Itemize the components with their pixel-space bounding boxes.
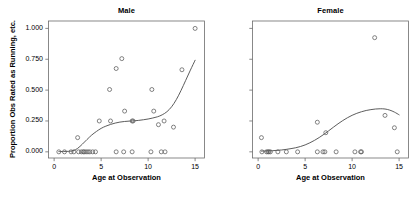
data-point (109, 119, 113, 123)
data-point (259, 136, 263, 140)
data-point (108, 88, 112, 92)
data-point (150, 88, 154, 92)
plot-canvas (0, 0, 420, 198)
data-point (395, 150, 399, 154)
data-point (284, 150, 288, 154)
data-point (171, 125, 175, 129)
data-point (353, 150, 357, 154)
data-point (180, 68, 184, 72)
figure-container: Male Female Proportion Obs Rated as Runn… (0, 0, 420, 198)
data-point (152, 109, 156, 113)
panel-male (45, 21, 204, 161)
data-point (114, 150, 118, 154)
data-point (193, 26, 197, 30)
data-point (162, 119, 166, 123)
data-point (373, 36, 377, 40)
data-point (130, 150, 134, 154)
data-point (315, 120, 319, 124)
data-point (260, 150, 264, 154)
data-point (156, 123, 160, 127)
data-point (315, 150, 319, 154)
data-point (383, 113, 387, 117)
data-point (296, 150, 300, 154)
data-point (114, 67, 118, 71)
data-point (149, 150, 153, 154)
data-point (334, 150, 338, 154)
data-point (76, 136, 80, 140)
data-point (93, 150, 97, 154)
data-point (123, 109, 127, 113)
data-point (122, 150, 126, 154)
data-point (97, 119, 101, 123)
panel-frame (253, 21, 409, 158)
smoothing-curve (261, 109, 399, 151)
panel-female (249, 21, 408, 161)
data-point (120, 57, 124, 61)
data-point (392, 126, 396, 130)
